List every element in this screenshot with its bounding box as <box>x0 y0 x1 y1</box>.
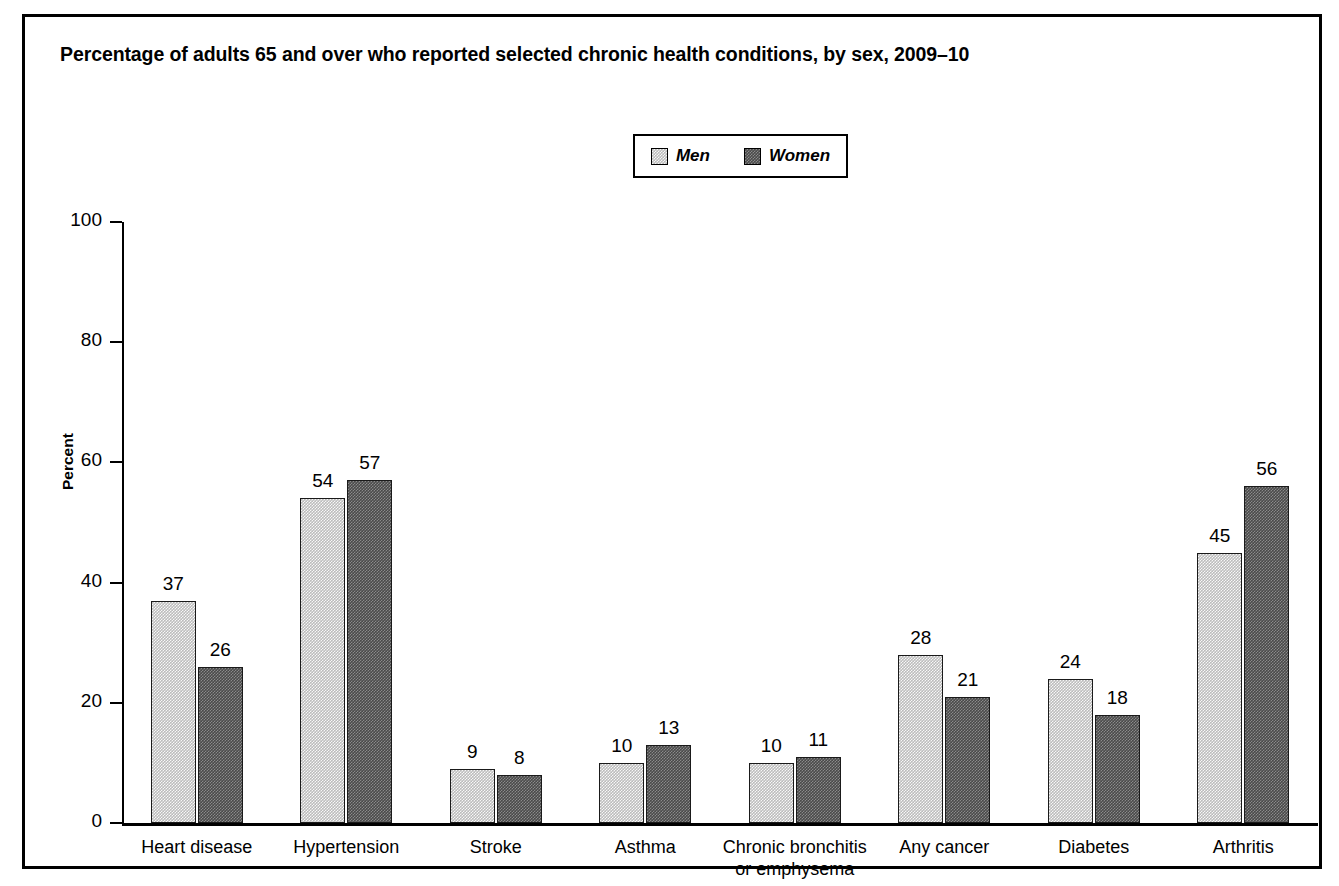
y-axis-tick-label: 0 <box>44 810 102 832</box>
bar-value-label: 26 <box>186 639 255 661</box>
y-axis-tick <box>110 221 122 223</box>
x-axis-label-3: Asthma <box>571 837 721 859</box>
figure-root: Percentage of adults 65 and over who rep… <box>0 0 1339 886</box>
bar-women-7 <box>1244 486 1289 823</box>
plot-area: 020406080100 372654579810131011282124184… <box>122 222 1318 823</box>
bar-men-3 <box>599 763 644 823</box>
bar-value-label: 8 <box>485 747 554 769</box>
bar-value-label: 37 <box>139 573 208 595</box>
y-axis-tick-label: 20 <box>44 690 102 712</box>
x-axis-label-1: Hypertension <box>272 837 422 859</box>
legend-item-women: Women <box>744 146 830 166</box>
bar-value-label: 56 <box>1232 458 1301 480</box>
bar-women-5 <box>945 697 990 823</box>
legend-label-men: Men <box>676 146 710 166</box>
bar-women-1 <box>347 480 392 823</box>
bar-men-2 <box>450 769 495 823</box>
y-axis-tick <box>110 341 122 343</box>
page-title: Percentage of adults 65 and over who rep… <box>60 43 969 66</box>
y-axis-tick-label: 40 <box>44 570 102 592</box>
bar-men-0 <box>151 601 196 823</box>
bar-value-label: 24 <box>1036 651 1105 673</box>
x-axis-label-2: Stroke <box>421 837 571 859</box>
x-axis-label-0: Heart disease <box>122 837 272 859</box>
bar-women-0 <box>198 667 243 823</box>
y-axis-line <box>122 222 124 823</box>
bar-women-2 <box>497 775 542 823</box>
x-axis-label-5: Any cancer <box>870 837 1020 859</box>
bar-men-4 <box>749 763 794 823</box>
bar-value-label: 13 <box>634 717 703 739</box>
y-axis-tick <box>110 822 122 824</box>
y-axis-tick <box>110 582 122 584</box>
bar-men-7 <box>1197 553 1242 823</box>
chart-frame: Percentage of adults 65 and over who rep… <box>22 14 1322 869</box>
y-axis-tick-label: 80 <box>44 329 102 351</box>
bar-value-label: 28 <box>886 627 955 649</box>
y-axis-tick <box>110 461 122 463</box>
bar-women-6 <box>1095 715 1140 823</box>
legend-label-women: Women <box>769 146 830 166</box>
bar-value-label: 21 <box>933 669 1002 691</box>
y-axis-tick <box>110 702 122 704</box>
bar-women-4 <box>796 757 841 823</box>
legend-swatch-women-icon <box>744 148 761 165</box>
y-axis-tick-label: 100 <box>44 209 102 231</box>
x-axis-label-4: Chronic bronchitis or emphysema <box>720 837 870 881</box>
x-axis-label-7: Arthritis <box>1169 837 1319 859</box>
bar-men-1 <box>300 498 345 823</box>
bar-value-label: 18 <box>1083 687 1152 709</box>
x-axis-line <box>122 823 1318 826</box>
bar-women-3 <box>646 745 691 823</box>
bar-value-label: 57 <box>335 452 404 474</box>
y-axis-tick-label: 60 <box>44 449 102 471</box>
bar-value-label: 11 <box>784 729 853 751</box>
legend-item-men: Men <box>651 146 710 166</box>
chart-legend: Men Women <box>633 134 848 178</box>
legend-swatch-men-icon <box>651 148 668 165</box>
x-axis-label-6: Diabetes <box>1019 837 1169 859</box>
